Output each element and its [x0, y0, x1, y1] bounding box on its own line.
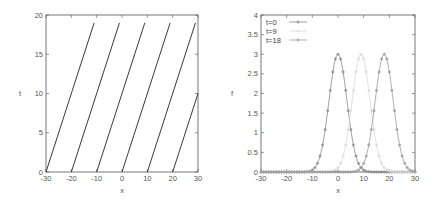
characteristic-line: [46, 23, 94, 172]
left-plot: -30-20-10010203005101520 x t: [19, 11, 202, 195]
x-tick-label: -10: [307, 174, 318, 183]
y-tick-label: 0.5: [248, 148, 258, 157]
right-y-label: f: [231, 89, 234, 98]
y-tick-label: 15: [35, 50, 43, 59]
y-tick-label: 4: [254, 11, 258, 20]
characteristic-line: [147, 23, 195, 172]
y-tick-label: 1: [254, 128, 258, 137]
x-tick-label: 10: [143, 174, 151, 183]
y-tick-label: 3: [254, 50, 258, 59]
gaussian-curve: [261, 54, 415, 172]
y-tick-label: 10: [35, 89, 43, 98]
x-tick-label: 20: [385, 174, 393, 183]
y-tick-label: 0: [254, 168, 258, 177]
y-tick-label: 2.5: [248, 69, 258, 78]
characteristic-line: [71, 23, 119, 172]
y-tick-label: 20: [35, 11, 43, 20]
y-tick-label: 0: [39, 168, 43, 177]
x-tick-label: -20: [66, 174, 77, 183]
left-x-label: x: [120, 186, 124, 195]
x-tick-label: 10: [359, 174, 367, 183]
characteristic-line: [173, 94, 198, 173]
x-tick-label: 20: [168, 174, 176, 183]
right-gaussian-curves: [260, 53, 417, 174]
x-tick-label: -20: [281, 174, 292, 183]
y-tick-label: 5: [39, 128, 43, 137]
y-tick-label: 1.5: [248, 109, 258, 118]
y-tick-label: 2: [254, 89, 258, 98]
right-plot: -30-20-10010203000.511.522.533.54 t=0t=9…: [231, 11, 419, 195]
x-tick-label: 0: [336, 174, 340, 183]
left-y-label: t: [19, 89, 22, 98]
gaussian-curve: [261, 54, 415, 172]
y-tick-label: 3.5: [248, 30, 258, 39]
legend-label: t=0: [266, 18, 277, 27]
x-tick-label: 0: [120, 174, 124, 183]
x-tick-label: -10: [91, 174, 102, 183]
legend-label: t=18: [266, 36, 281, 45]
legend-label: t=9: [266, 27, 277, 36]
right-x-label: x: [336, 186, 340, 195]
x-tick-label: 30: [194, 174, 202, 183]
characteristic-line: [122, 23, 170, 172]
x-tick-label: 30: [411, 174, 419, 183]
legend: t=0t=9t=18: [266, 18, 307, 45]
characteristic-line: [97, 23, 145, 172]
gaussian-curve: [261, 54, 415, 172]
left-characteristic-lines: [46, 23, 198, 172]
figure: -30-20-10010203005101520 x t -30-20-1001…: [0, 0, 437, 200]
